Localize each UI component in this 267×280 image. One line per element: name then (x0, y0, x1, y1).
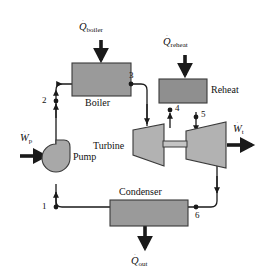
state-dot-1 (54, 205, 59, 210)
state-label-3: 3 (129, 71, 134, 80)
reheat-label: Reheat (211, 85, 239, 95)
q-boiler-subscript: boiler (87, 26, 103, 34)
turbine-stage2-body (186, 122, 226, 168)
q-out-subscript: out (139, 260, 148, 268)
q-out-label: ˙Qout (131, 256, 148, 268)
reheat-block (159, 79, 207, 103)
w-pump-subscript: p (29, 137, 33, 145)
q-out-dot: ˙ (134, 254, 136, 259)
state-dot-4 (168, 108, 173, 113)
condenser-block (110, 200, 188, 226)
pump-body (42, 140, 70, 172)
turbine-label: Turbine (93, 141, 124, 151)
state-dot-3 (129, 82, 134, 87)
rankine-reheat-diagram: ˙Qboiler ˙Qreheat ˙Qout ˙Wp ˙Wt Boiler R… (0, 0, 267, 280)
q-reheat-label: ˙Qreheat (163, 37, 188, 49)
w-turbine-subscript: t (242, 128, 244, 136)
turbine-stage1-body (133, 124, 164, 166)
w-turbine-label: ˙Wt (233, 124, 244, 136)
state-dot-2 (54, 99, 59, 104)
q-boiler-dot: ˙ (82, 20, 84, 25)
turbine-shaft (163, 141, 187, 147)
boiler-block (72, 63, 131, 96)
pipe-turbine2-to-condenser (188, 165, 217, 207)
state-label-6: 6 (195, 211, 200, 220)
pipe-boiler-to-turbine1 (131, 84, 147, 126)
cycle-schematic-svg (0, 0, 267, 280)
boiler-label: Boiler (85, 98, 110, 108)
q-reheat-subscript: reheat (171, 41, 188, 49)
pump-label: Pump (73, 152, 96, 162)
w-turbine-dot: ˙ (236, 122, 238, 127)
condenser-label: Condenser (119, 187, 162, 197)
state-dot-5 (194, 115, 199, 120)
q-reheat-dot: ˙ (166, 35, 168, 40)
state-dot-6 (194, 205, 199, 210)
w-pump-dot: ˙ (23, 131, 25, 136)
w-pump-label: ˙Wp (20, 133, 32, 145)
state-label-5: 5 (201, 110, 206, 119)
state-label-2: 2 (42, 96, 47, 105)
q-boiler-label: ˙Qboiler (79, 22, 103, 34)
pipe-condenser-to-pump (56, 184, 110, 207)
state-label-4: 4 (175, 104, 180, 113)
state-label-1: 1 (42, 202, 47, 211)
